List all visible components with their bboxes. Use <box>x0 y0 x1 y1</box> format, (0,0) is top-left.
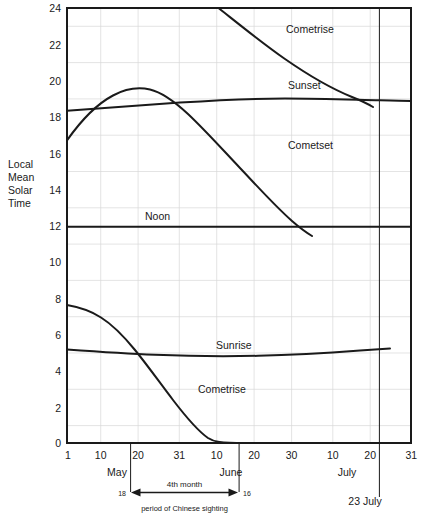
y-tick-6: 6 <box>55 329 61 341</box>
y-tick-20: 20 <box>49 75 61 87</box>
series-path-sunset <box>67 99 411 111</box>
x-axis-month-labels: May June July <box>107 466 357 478</box>
sighting-arrow-head-right <box>229 489 239 497</box>
month-label-july: July <box>338 466 357 478</box>
series-labels: Cometrise Sunset Cometset Noon Sunrise C… <box>145 23 334 395</box>
y-tick-24: 24 <box>49 2 61 14</box>
x-tick-july-10: 10 <box>327 449 339 461</box>
x-tick-june-10: 10 <box>211 449 223 461</box>
y-tick-18: 18 <box>49 111 61 123</box>
y-axis-title-line-3: Solar <box>8 184 33 196</box>
x-tick-may-31: 31 <box>173 449 185 461</box>
chinese-sighting-annotation: 18 16 4th month period of Chinese sighti… <box>118 480 251 513</box>
x-tick-june-20: 20 <box>248 449 260 461</box>
sighting-caption: period of Chinese sighting <box>141 504 228 513</box>
y-axis-title-line-1: Local <box>8 158 33 170</box>
y-tick-12: 12 <box>49 220 61 232</box>
series-path-cometset <box>67 88 312 236</box>
series-curves <box>67 8 411 443</box>
y-axis-title: Local Mean Solar Time <box>8 158 34 209</box>
series-label-cometrise-lower: Cometrise <box>198 383 246 395</box>
series-label-sunset: Sunset <box>288 79 321 91</box>
y-tick-16: 16 <box>49 148 61 160</box>
sighting-arrow-head-left <box>131 489 141 497</box>
y-tick-10: 10 <box>49 256 61 268</box>
y-tick-22: 22 <box>49 39 61 51</box>
series-label-cometset: Cometset <box>288 139 333 151</box>
x-tick-may-1: 1 <box>65 449 71 461</box>
sighting-end-label: 16 <box>243 490 251 497</box>
comet-visibility-chart: 24 22 20 18 16 14 12 10 8 6 4 2 0 Local … <box>0 0 423 520</box>
y-tick-0: 0 <box>55 437 61 449</box>
x-tick-july-31: 31 <box>405 449 417 461</box>
x-tick-june-30: 30 <box>286 449 298 461</box>
x-tick-july-20: 20 <box>364 449 376 461</box>
x-axis-tick-labels: 1 10 20 31 10 20 30 10 20 31 <box>65 449 417 461</box>
series-label-cometrise-upper: Cometrise <box>286 23 334 35</box>
y-tick-14: 14 <box>49 184 61 196</box>
month-label-may: May <box>107 466 128 478</box>
sighting-start-label: 18 <box>118 490 126 497</box>
y-axis-tick-labels: 24 22 20 18 16 14 12 10 8 6 4 2 0 <box>49 2 61 449</box>
y-tick-8: 8 <box>55 293 61 305</box>
x-tick-may-10: 10 <box>95 449 107 461</box>
y-tick-4: 4 <box>55 365 61 377</box>
grid-lines <box>67 8 411 443</box>
month-label-june: June <box>220 466 243 478</box>
y-axis-title-line-2: Mean <box>8 171 34 183</box>
chart-root: 24 22 20 18 16 14 12 10 8 6 4 2 0 Local … <box>0 0 423 520</box>
x-tick-may-20: 20 <box>132 449 144 461</box>
y-axis-title-line-4: Time <box>8 197 31 209</box>
plot-frame <box>67 8 411 443</box>
annotation-23-july-label: 23 July <box>348 495 382 507</box>
y-tick-2: 2 <box>55 402 61 414</box>
series-label-noon: Noon <box>145 210 170 222</box>
series-path-cometrise-lower <box>67 305 245 443</box>
sighting-range-label: 4th month <box>167 480 203 489</box>
series-label-sunrise: Sunrise <box>216 339 252 351</box>
